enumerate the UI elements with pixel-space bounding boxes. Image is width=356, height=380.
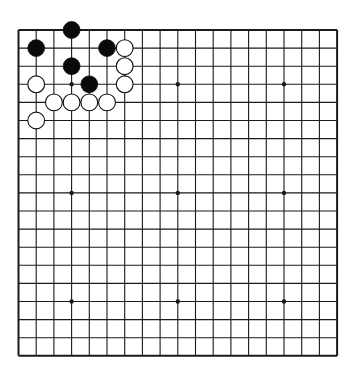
white-stone [28, 112, 45, 129]
black-stone [63, 22, 80, 39]
white-stone [63, 94, 80, 111]
black-stone [81, 76, 98, 93]
go-board[interactable] [0, 0, 356, 380]
white-stone [28, 76, 45, 93]
black-stone [63, 58, 80, 75]
star-point [69, 191, 73, 195]
white-stone [116, 40, 133, 57]
star-point [282, 299, 286, 303]
black-stone [99, 40, 116, 57]
star-point [176, 299, 180, 303]
white-stone [99, 94, 116, 111]
star-point [69, 299, 73, 303]
white-stone [116, 76, 133, 93]
star-point [69, 82, 73, 86]
white-stone [46, 94, 63, 111]
star-point [282, 82, 286, 86]
star-point [176, 82, 180, 86]
white-stone [81, 94, 98, 111]
star-point [176, 191, 180, 195]
white-stone [116, 58, 133, 75]
black-stone [28, 40, 45, 57]
star-point [282, 191, 286, 195]
stones-layer [28, 22, 133, 129]
